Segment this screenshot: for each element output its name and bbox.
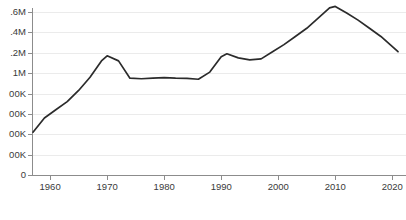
- chart-screenshot: 000K00K00K00K1M.2M.4M.6M 196019701980199…: [0, 0, 406, 220]
- line-series-path: [33, 6, 398, 132]
- line-series-layer: [0, 0, 406, 220]
